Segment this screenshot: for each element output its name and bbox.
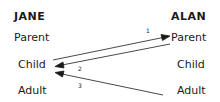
- transaction-label-3: 3: [78, 82, 82, 89]
- transaction-label-2: 2: [78, 65, 82, 72]
- arrow-2-head-icon: [55, 62, 64, 68]
- transactional-analysis-diagram: JANE Parent Child Adult ALAN Parent Chil…: [0, 0, 220, 102]
- arrow-3-head-icon: [55, 71, 64, 77]
- arrow-1-head-icon: [161, 35, 170, 41]
- transaction-label-1: 1: [146, 27, 150, 34]
- transaction-arrows: [0, 0, 220, 102]
